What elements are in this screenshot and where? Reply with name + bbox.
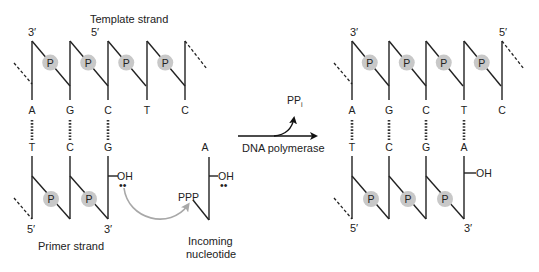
phosphate-label: P [478,57,485,69]
phosphate-label: P [404,193,411,205]
phosphate-label: P [162,57,169,69]
primer-base-1: C [66,141,74,153]
before-panel: Template strand 3′ 5′ PAPGPCPTC TPCPGOH•… [14,13,236,260]
template-5prime-stub [185,41,207,69]
ppi-text: PP [287,94,301,106]
incoming-label-line2: nucleotide [186,248,236,260]
phosphate-label: P [440,57,447,69]
after-template-0-phosphate: P [362,55,378,71]
phosphate-label: P [123,57,130,69]
template-1-phosphate: P [80,55,96,71]
after-template-1-phosphate: P [399,55,415,71]
incoming-nucleotide: A OH •• PPP Incoming nucleotide [178,141,236,260]
after-template-base-4: C [498,104,506,116]
primer-oh-lone-pair: •• [119,179,127,191]
after-template-base-2: C [422,104,430,116]
template-strand-label: Template strand [90,13,168,25]
template-base-4: C [181,104,189,116]
after-primer-base-0: T [349,141,356,153]
incoming-base: A [201,141,208,153]
after-primer-3prime-oh: OH [476,167,492,179]
incoming-phosphate-bond [193,200,209,220]
phosphate-label: P [367,193,374,205]
after-template-5prime-stub [502,41,524,69]
primer-base-2: G [104,141,112,153]
template-2-phosphate: P [118,55,134,71]
primer-strand: TPCPGOH•• [14,141,133,219]
after-primer-3prime-label: 3′ [464,222,472,234]
dna-polymerase-diagram: Template strand 3′ 5′ PAPGPCPTC TPCPGOH•… [0,0,539,272]
after-template-3-phosphate: P [474,55,490,71]
enzyme-label: DNA polymerase [242,142,325,154]
after-template-strand: PAPGPCPTC [334,41,524,116]
primer-5prime-label: 5′ [27,223,35,235]
after-primer-base-2: G [422,141,430,153]
phosphate-label: P [403,57,410,69]
after-primer-0-phosphate: P [363,191,379,207]
after-template-5prime-label: 5′ [499,26,507,38]
after-template-base-3: T [461,104,468,116]
after-primer-base-3: A [460,141,467,153]
phosphate-label: P [47,57,54,69]
after-primer-1-phosphate: P [400,191,416,207]
template-base-0: A [28,104,35,116]
after-template-base-1: G [385,104,393,116]
phosphate-label: P [366,57,373,69]
template-base-3: T [144,104,151,116]
template-3-phosphate: P [157,55,173,71]
phosphate-label: P [441,193,448,205]
phosphate-label: P [47,193,54,205]
phosphate-label: P [85,57,92,69]
ppi-release-arrow [274,118,294,136]
after-primer-2-phosphate: P [437,191,453,207]
template-strand: PAPGPCPTC [14,41,207,116]
after-primer-5prime-label: 5′ [350,222,358,234]
primer-3prime-label: 3′ [104,223,112,235]
after-template-2-phosphate: P [436,55,452,71]
reaction-arrow-group: PPi DNA polymerase [238,94,325,154]
template-5prime-label: 5′ [91,26,99,38]
primer-0-phosphate: P [43,191,59,207]
base-pair-hbonds [32,120,108,140]
after-primer-strand: TPCPGPAOH [334,141,492,219]
after-primer-5prime-stub [334,198,352,219]
template-base-1: G [66,104,74,116]
primer-base-0: T [29,141,36,153]
after-template-base-0: A [348,104,355,116]
after-template-3prime-label: 3′ [350,26,358,38]
template-base-2: C [104,104,112,116]
after-panel: 3′ 5′ PAPGPCPTC TPCPGPAOH 5′ 3′ [334,26,524,234]
primer-1-phosphate: P [81,191,97,207]
ppi-label: PPi [287,94,303,108]
primer-strand-label: Primer strand [38,240,104,252]
template-0-phosphate: P [42,55,58,71]
template-3prime-label: 3′ [28,26,36,38]
primer-5prime-stub [14,198,32,219]
incoming-label-line1: Incoming [188,235,233,247]
ppi-subscript: i [301,101,303,108]
incoming-oh-lone-pair: •• [220,179,228,191]
after-primer-base-1: C [385,141,393,153]
phosphate-label: P [85,193,92,205]
after-template-3prime-stub [334,63,352,84]
template-3prime-stub [14,63,32,84]
after-base-pair-hbonds [352,120,464,140]
incoming-triphosphate: PPP [178,191,199,203]
